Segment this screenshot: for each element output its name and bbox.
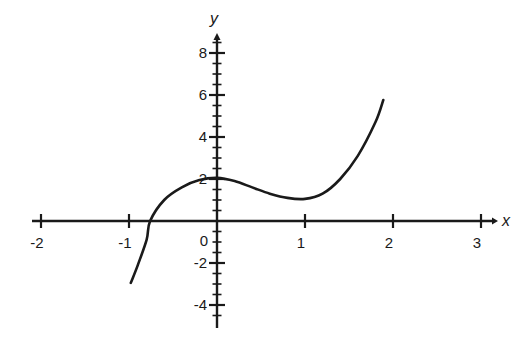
origin-label: 0 (200, 232, 208, 249)
y-axis-arrow-icon (214, 33, 221, 40)
y-axis-label: y (209, 10, 219, 27)
y-tick-label: -4 (194, 296, 207, 313)
y-tick-label: 6 (199, 86, 207, 103)
tick-labels: -2-1123-4-224680 (30, 44, 481, 313)
x-axis-arrow-icon (492, 218, 498, 225)
y-tick-label: 8 (199, 44, 207, 61)
axes (32, 33, 498, 328)
x-tick-label: 2 (385, 234, 393, 251)
tick-marks (41, 43, 481, 316)
x-tick-label: 3 (473, 234, 481, 251)
x-axis-label: x (501, 212, 511, 229)
x-tick-label: -1 (118, 234, 131, 251)
y-tick-label: -2 (194, 254, 207, 271)
cubic-function-graph: -2-1123-4-224680 x y (0, 0, 528, 352)
x-tick-label: -2 (30, 234, 43, 251)
function-curve (131, 100, 383, 283)
y-tick-label: 4 (199, 128, 207, 145)
x-tick-label: 1 (297, 234, 305, 251)
